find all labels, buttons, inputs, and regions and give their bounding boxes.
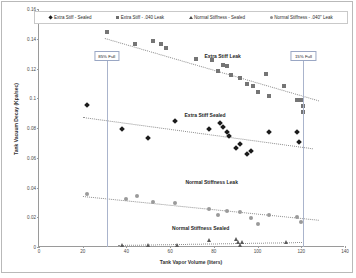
data-point [229,73,233,77]
data-point [267,213,271,217]
data-point [159,42,163,46]
data-point [151,39,155,43]
series-label: Extra Stiff Leak [204,53,240,59]
data-point [233,145,239,151]
data-point [175,243,179,247]
trendline [83,117,313,149]
chart-legend: Extra Stiff - SealedExtra Stiff - .040 L… [34,11,348,24]
trendline [104,38,318,101]
circle-marker-icon [270,16,273,19]
legend-item-label: Normal Stiffness - Sealed [194,15,245,20]
legend-item-label: Normal Stiffness - .040" Leak [274,15,332,20]
data-point [135,194,139,198]
data-point [173,201,177,205]
data-point [145,135,151,141]
data-point [207,207,211,211]
series-label: Normal Stiffness Leak [185,179,238,185]
data-point [207,238,211,242]
data-point [295,215,299,219]
data-point [294,129,300,135]
data-point [133,42,137,46]
data-point [164,46,168,50]
y-axis-tick-mark [37,39,39,40]
x-axis-tick-mark [83,246,84,248]
square-marker-icon [116,16,119,19]
annotation-stem [107,60,108,247]
data-point [120,243,124,247]
annotation-callout: 85% Full [94,51,119,61]
data-point [238,76,242,80]
y-axis-tick-mark [37,128,39,129]
data-point [194,57,198,61]
annotation-callout: 15% Full [291,51,316,61]
legend-item-label: Extra Stiff - .040 Leak [121,15,164,20]
x-axis-tick-mark [258,246,259,248]
data-point [146,243,150,247]
y-axis-title: Tank Vacuum Decay (Kpa/sec) [13,49,19,189]
data-point [84,102,90,108]
y-axis-tick-mark [37,98,39,99]
triangle-marker-icon [189,16,193,19]
data-point [237,141,243,147]
y-axis-tick-mark [37,188,39,189]
data-point [251,84,255,88]
diamond-marker-icon [49,15,54,20]
data-point [245,82,249,86]
series-label: Normal Stiffness Sealed [172,225,229,231]
data-point [172,118,178,124]
x-axis-tick-mark [126,246,127,248]
data-point [225,209,229,213]
data-point [119,126,125,132]
y-axis-tick-mark [37,9,39,10]
data-point [207,126,213,132]
plot-area: 00.020.040.060.080.10.120.140.1602040608… [38,9,344,247]
data-point [238,210,242,214]
data-point [266,129,272,135]
trendline [83,196,319,221]
data-point [264,72,268,76]
legend-item-label: Extra Stiff - Sealed [54,15,91,20]
data-point [249,216,253,220]
data-point [216,213,220,217]
legend-item[interactable]: Normal Stiffness - .040" Leak [270,15,333,20]
trendline [118,242,302,246]
y-axis-tick-mark [37,217,39,218]
x-axis-tick-mark [214,246,215,248]
legend-item[interactable]: Extra Stiff - Sealed [49,15,91,20]
data-point [256,90,260,94]
data-point [296,139,302,145]
chart-root: Tank Vacuum Decay (Kpa/sec) Tank Vapor V… [0,0,356,278]
x-axis-tick-mark [39,246,40,248]
data-point [220,124,226,130]
x-axis-tick-mark [301,246,302,248]
data-point [216,69,220,73]
y-axis-tick-mark [37,69,39,70]
data-point [105,30,109,34]
data-point [267,94,271,98]
x-axis-tick-mark [170,246,171,248]
data-point [124,197,128,201]
x-axis-title: Tank Vapor Volume (liters) [38,259,344,265]
legend-item[interactable]: Normal Stiffness - Sealed [189,15,245,20]
series-label: Extra Stiff Sealed [185,112,226,118]
data-point [210,58,214,62]
data-point [85,192,89,196]
data-point [282,84,286,88]
y-axis-tick-mark [37,158,39,159]
legend-item[interactable]: Extra Stiff - .040 Leak [116,15,164,20]
data-point [284,240,288,244]
data-point [256,222,260,226]
x-axis-tick-mark [345,246,346,248]
annotation-stem [303,60,304,247]
data-point [151,200,155,204]
data-point [225,64,229,68]
data-point [240,240,244,244]
